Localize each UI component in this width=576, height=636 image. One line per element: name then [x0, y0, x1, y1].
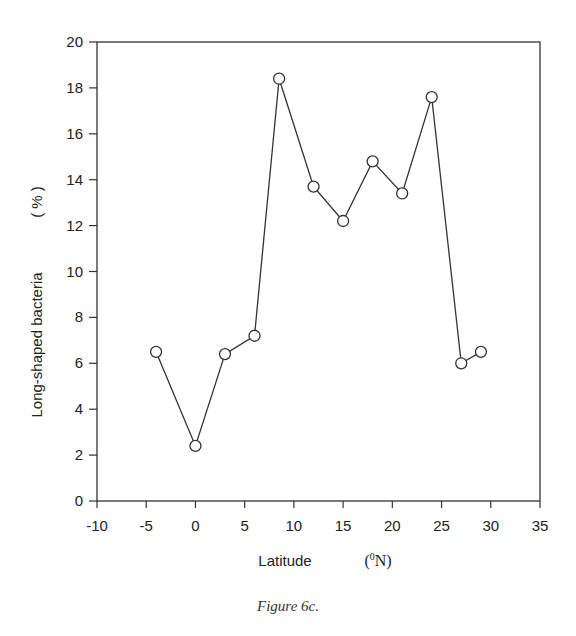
- x-tick-label: 10: [286, 517, 303, 534]
- y-tick-label: 2: [75, 446, 83, 463]
- x-tick-label: 15: [335, 517, 352, 534]
- figure-caption: Figure 6c.: [0, 598, 576, 615]
- data-point-marker: [190, 440, 201, 451]
- x-tick-label: -10: [86, 517, 108, 534]
- x-tick-label: 25: [433, 517, 450, 534]
- x-axis-ticks: -10-505101520253035: [86, 501, 548, 534]
- line-chart: 02468101214161820 -10-505101520253035 La…: [0, 0, 576, 636]
- data-point-marker: [397, 188, 408, 199]
- data-point-marker: [249, 330, 260, 341]
- plot-frame: [97, 42, 540, 501]
- data-point-marker: [367, 156, 378, 167]
- y-axis-label: Long-shaped bacteria: [28, 272, 45, 418]
- y-axis-ticks: 02468101214161820: [66, 33, 97, 509]
- y-tick-label: 12: [66, 217, 83, 234]
- data-point-marker: [308, 181, 319, 192]
- y-tick-label: 4: [75, 400, 83, 417]
- data-series: [151, 73, 487, 451]
- y-tick-label: 20: [66, 33, 83, 50]
- data-point-marker: [274, 73, 285, 84]
- series-line: [156, 79, 481, 446]
- y-tick-label: 0: [75, 492, 83, 509]
- data-point-marker: [475, 346, 486, 357]
- y-tick-label: 18: [66, 79, 83, 96]
- plot-border: [97, 42, 540, 501]
- x-tick-label: 30: [482, 517, 499, 534]
- x-tick-label: 5: [240, 517, 248, 534]
- y-tick-label: 8: [75, 308, 83, 325]
- x-axis-label: Latitude: [258, 552, 311, 569]
- y-tick-label: 6: [75, 354, 83, 371]
- y-tick-label: 14: [66, 171, 83, 188]
- data-point-marker: [426, 92, 437, 103]
- data-point-marker: [151, 346, 162, 357]
- data-point-marker: [338, 216, 349, 227]
- y-tick-label: 16: [66, 125, 83, 142]
- x-tick-label: -5: [140, 517, 153, 534]
- x-tick-label: 35: [532, 517, 549, 534]
- data-point-marker: [456, 358, 467, 369]
- x-axis-unit: (0N): [364, 551, 391, 570]
- y-tick-label: 10: [66, 263, 83, 280]
- data-point-marker: [219, 349, 230, 360]
- y-axis-unit: ( % ): [28, 186, 45, 218]
- x-tick-label: 0: [191, 517, 199, 534]
- x-tick-label: 20: [384, 517, 401, 534]
